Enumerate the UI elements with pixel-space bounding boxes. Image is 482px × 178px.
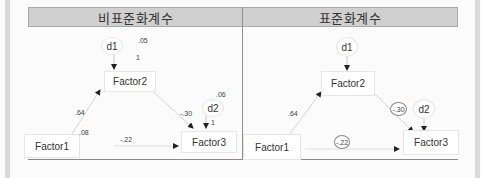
d2-disturbance-node: d2 <box>413 99 435 119</box>
d1-variance-label: .05 <box>138 37 148 44</box>
factor1-to-factor2-label: .64 <box>288 110 298 117</box>
d2-variance-label: .06 <box>216 91 226 98</box>
d1-disturbance-node: d1 <box>101 37 123 55</box>
factor3-node: Factor3 <box>403 130 459 155</box>
factor2-to-factor3-circled-label: -.30 <box>390 102 407 116</box>
factor2-node: Factor2 <box>104 71 156 92</box>
factor1-to-factor3-circled-label: -.22 <box>334 135 350 149</box>
d1-to-factor2-label: 1 <box>136 54 140 61</box>
factor1-to-factor2-label: .64 <box>75 109 85 116</box>
left-margin-bar <box>5 0 10 178</box>
factor1-variance-label: .08 <box>79 129 89 136</box>
factor1-node: Factor1 <box>24 134 80 158</box>
right-margin-bar <box>475 0 480 178</box>
unstandardized-panel: 비표준화계수 d1 Factor2 d2 <box>28 7 242 159</box>
factor2-to-factor3-label: -.30 <box>180 110 192 117</box>
factor1-to-factor3-label: -.22 <box>120 136 132 143</box>
factor2-node: Factor2 <box>321 71 375 96</box>
coefficient-comparison-table: 비표준화계수 d1 Factor2 d2 <box>28 7 458 160</box>
d2-to-factor3-label: 1 <box>211 119 215 126</box>
d1-disturbance-node: d1 <box>336 37 358 57</box>
page: 비표준화계수 d1 Factor2 d2 <box>0 0 482 178</box>
d2-disturbance-node: d2 <box>202 99 224 117</box>
factor1-node: Factor1 <box>243 134 301 160</box>
standardized-panel: 표준화계수 d1 Factor2 d2 <box>242 7 458 159</box>
factor3-node: Factor3 <box>181 131 237 153</box>
